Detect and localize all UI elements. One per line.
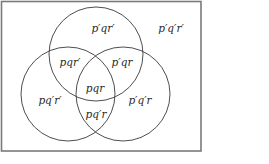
region-label-outside: p′q′r′ [158,22,184,34]
region-label-top-right: p′qr [112,56,134,68]
region-label-top-only: p′qr′ [91,22,115,34]
region-label-top-left: pqr′ [60,56,81,68]
venn-diagram: p′qr′ p′q′r′ pqr′ p′qr pqr pq′r′ p′q′r p… [0,0,269,164]
region-label-left-only: pq′r′ [38,94,62,106]
region-label-bottom: pq′r [86,108,108,120]
region-label-right-only: p′q′r [128,94,152,106]
region-label-center: pqr [86,82,105,94]
